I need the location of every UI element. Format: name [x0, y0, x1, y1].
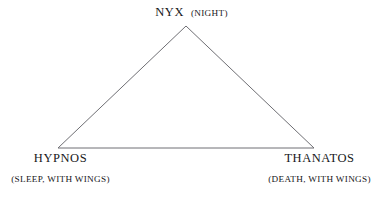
node-name-nyx: NYX: [155, 5, 184, 19]
genealogy-triangle-diagram: NYX (NIGHT) HYPNOS (SLEEP, WITH WINGS) T…: [0, 0, 383, 203]
node-label-thanatos: THANATOS (DEATH, WITH WINGS): [256, 152, 383, 184]
node-name-hypnos: HYPNOS: [0, 152, 121, 166]
node-label-hypnos: HYPNOS (SLEEP, WITH WINGS): [0, 152, 121, 184]
node-name-thanatos: THANATOS: [256, 152, 383, 166]
node-label-nyx: NYX (NIGHT): [0, 2, 383, 20]
node-gloss-thanatos: (DEATH, WITH WINGS): [256, 174, 383, 184]
node-gloss-hypnos: (SLEEP, WITH WINGS): [0, 174, 121, 184]
triangle-outline: [58, 26, 314, 148]
node-gloss-nyx: (NIGHT): [191, 8, 228, 18]
